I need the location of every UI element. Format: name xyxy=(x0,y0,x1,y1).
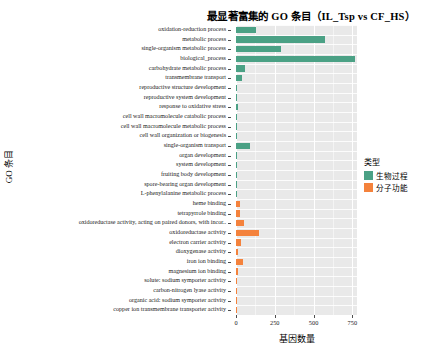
y-axis-tick-label: single-organism transport xyxy=(164,141,226,151)
y-axis-tick-mark xyxy=(228,281,231,282)
y-axis-tick-label: organic acid: sodium symporter activity xyxy=(129,296,226,306)
bar xyxy=(236,94,237,101)
y-axis-tick-mark xyxy=(228,301,231,302)
bar xyxy=(236,46,281,53)
bar xyxy=(236,75,242,82)
bar xyxy=(236,201,240,208)
y-axis-tick-mark xyxy=(228,146,231,147)
bar xyxy=(236,162,237,169)
gridline-horizontal xyxy=(236,267,357,268)
y-axis-tick-label: organ development xyxy=(179,151,226,161)
gridline-horizontal xyxy=(236,276,357,277)
y-axis-tick-label: magnesium ion binding xyxy=(168,267,226,277)
bar xyxy=(236,259,243,266)
bar xyxy=(236,123,237,130)
legend-item-label: 分子功能 xyxy=(376,182,408,193)
gridline-horizontal xyxy=(236,209,357,210)
bar xyxy=(236,249,238,256)
y-axis-tick-mark xyxy=(228,49,231,50)
y-axis-tick-mark xyxy=(228,252,231,253)
bar xyxy=(236,172,237,179)
y-axis-tick-mark xyxy=(228,175,231,176)
y-axis-tick-mark xyxy=(228,291,231,292)
bar xyxy=(236,297,237,304)
legend-item-biological-process: 生物过程 xyxy=(364,170,424,181)
y-axis-tick-label: system development xyxy=(176,160,226,170)
y-axis-tick-mark xyxy=(228,165,231,166)
y-axis-tick-label: fruiting body development xyxy=(161,170,226,180)
gridline-horizontal xyxy=(236,83,357,84)
bar xyxy=(236,268,238,275)
x-axis-tick-mark xyxy=(275,315,276,318)
gridline-horizontal xyxy=(236,170,357,171)
bar xyxy=(236,239,241,246)
go-enrichment-bar-chart: 最显著富集的 GO 条目（IL_Tsp vs CF_HS） GO 条目 oxid… xyxy=(0,0,424,357)
gridline-horizontal xyxy=(236,286,357,287)
y-axis-tick-label: reproductive structure development xyxy=(139,83,226,93)
chart-title: 最显著富集的 GO 条目（IL_Tsp vs CF_HS） xyxy=(200,8,422,23)
gridline-horizontal xyxy=(236,160,357,161)
y-axis-tick-label: oxidoreductase activity xyxy=(169,228,226,238)
gridline-horizontal xyxy=(236,180,357,181)
bar xyxy=(236,152,237,159)
y-axis-tick-mark xyxy=(228,78,231,79)
y-axis-tick-label: iron ion binding xyxy=(187,257,226,267)
gridline-horizontal xyxy=(236,247,357,248)
y-axis-tick-mark xyxy=(228,194,231,195)
y-axis-tick-mark xyxy=(228,107,231,108)
bar xyxy=(236,85,237,92)
x-axis-tick-label: 500 xyxy=(302,319,326,326)
y-axis-tick-label: response to oxidative stress xyxy=(159,102,226,112)
y-axis-tick-mark xyxy=(228,223,231,224)
y-axis-tick-label: transmembrane transport xyxy=(165,73,226,83)
gridline-horizontal xyxy=(236,199,357,200)
gridline-horizontal xyxy=(236,112,357,113)
gridline-horizontal xyxy=(236,305,357,306)
y-axis-tick-label: oxidation-reduction process xyxy=(158,25,226,35)
x-axis-tick-label: 750 xyxy=(340,319,364,326)
y-axis-tick-mark xyxy=(228,30,231,31)
y-axis-tick-mark xyxy=(228,204,231,205)
y-axis-tick-label: spore-bearing organ development xyxy=(144,180,226,190)
bar xyxy=(236,210,240,217)
y-axis-tick-label: single-organism metabolic process xyxy=(141,44,226,54)
y-axis-tick-label: oxidoreductase activity, acting on paire… xyxy=(79,218,226,228)
bar xyxy=(236,307,237,314)
y-axis-tick-label: cell wall macromolecule catabolic proces… xyxy=(123,112,226,122)
gridline-horizontal xyxy=(236,238,357,239)
y-axis-tick-label: carbon-nitrogen lyase activity xyxy=(153,286,226,296)
gridline-horizontal xyxy=(236,296,357,297)
bar xyxy=(236,230,259,237)
bar xyxy=(236,114,237,121)
y-axis-tick-mark xyxy=(228,243,231,244)
y-axis-tick-mark xyxy=(228,69,231,70)
x-axis-tick-mark xyxy=(352,315,353,318)
bar xyxy=(236,133,237,140)
y-axis-tick-mark xyxy=(228,117,231,118)
x-axis: 0250500750 xyxy=(236,315,357,331)
plot-panel xyxy=(236,25,357,315)
bar xyxy=(236,220,244,227)
legend-entries: 生物过程分子功能 xyxy=(364,170,424,193)
gridline-horizontal xyxy=(236,93,357,94)
y-axis-tick-label: metabolic process xyxy=(182,35,226,45)
x-axis-title: 基因数量 xyxy=(236,332,357,345)
legend-title: 类型 xyxy=(364,156,424,167)
bar xyxy=(236,36,325,43)
y-axis-tick-label: carbohydrate metabolic process xyxy=(149,64,226,74)
y-axis-tick-label: cell wall organization or biogenesis xyxy=(139,131,226,141)
y-axis-tick-mark xyxy=(228,272,231,273)
bar xyxy=(236,27,256,34)
y-axis-tick-labels: oxidation-reduction processmetabolic pro… xyxy=(18,25,231,315)
legend-item-label: 生物过程 xyxy=(376,170,408,181)
bar xyxy=(236,278,237,285)
gridline-horizontal xyxy=(236,131,357,132)
y-axis-tick-mark xyxy=(228,214,231,215)
y-axis-tick-mark xyxy=(228,156,231,157)
gridline-horizontal xyxy=(236,102,357,103)
y-axis-tick-label: heme binding xyxy=(193,199,226,209)
y-axis-tick-mark xyxy=(228,262,231,263)
y-axis-tick-label: tetrapyrrole binding xyxy=(177,209,226,219)
gridline-horizontal xyxy=(236,257,357,258)
y-axis-tick-label: cell wall macromolecule metabolic proces… xyxy=(121,122,226,132)
